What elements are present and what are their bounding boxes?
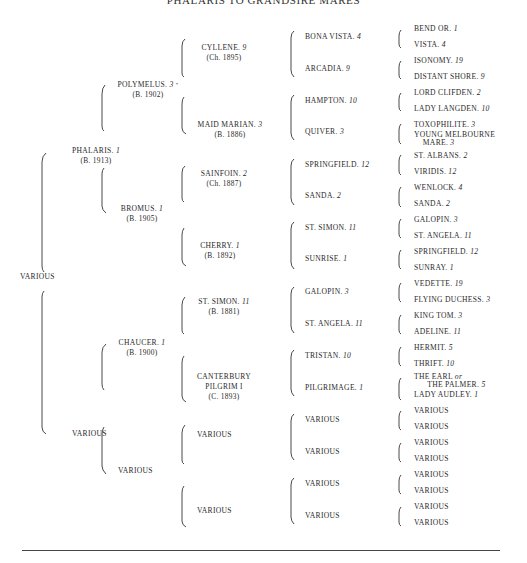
- gen5-node: TOXOPHILITE. 3: [414, 120, 475, 130]
- gen5-node: WENLOCK. 4: [414, 183, 463, 193]
- gen5-node: ST. ALBANS. 2: [414, 151, 468, 161]
- gen4-node: HAMPTON. 10: [305, 96, 357, 106]
- gen5-node: VEDETTE. 19: [414, 279, 463, 289]
- gen4-node: VARIOUS: [305, 511, 340, 521]
- gen4-node: TRISTAN. 10: [305, 351, 351, 361]
- gen5-node: BEND OR. 1: [414, 24, 458, 34]
- gen2-node: POLYMELUS. 3 " (B. 1902): [112, 80, 184, 100]
- gen5-node: VIRIDIS. 12: [414, 167, 457, 177]
- gen5-node: VARIOUS: [414, 406, 449, 416]
- gen4-node: ST. ANGELA. 11: [305, 319, 363, 329]
- gen5-node: SPRINGFIELD. 12: [414, 247, 478, 257]
- gen4-node: SUNRISE. 1: [305, 254, 347, 264]
- gen5-node: VARIOUS: [414, 486, 449, 496]
- gen5-node: SANDA. 2: [414, 199, 450, 209]
- gen5-node: ISONOMY. 19: [414, 56, 463, 66]
- gen4-node: SANDA. 2: [305, 191, 341, 201]
- gen5-node: VARIOUS: [414, 470, 449, 480]
- gen4-node: VARIOUS: [305, 479, 340, 489]
- gen3-node: SAINFOIN. 2 (Ch. 1887): [192, 169, 256, 189]
- gen5-node: FLYING DUCHESS. 3: [414, 295, 490, 305]
- gen5-node: VARIOUS: [414, 454, 449, 464]
- gen5-node: VISTA. 4: [414, 40, 446, 50]
- gen2-node: CHAUCER. 1 (B. 1900): [112, 338, 172, 358]
- gen5-node: THE EARL or THE PALMER. 5: [414, 373, 485, 389]
- gen3-node: MAID MARIAN. 3 (B. 1886): [192, 120, 268, 140]
- gen4-node: PILGRIMAGE. 1: [305, 383, 363, 393]
- gen4-node: ARCADIA. 9: [305, 64, 350, 74]
- gen5-node: VARIOUS: [414, 422, 449, 432]
- gen5-node: DISTANT SHORE. 9: [414, 72, 485, 82]
- gen5-node: LORD CLIFDEN. 2: [414, 88, 481, 98]
- gen4-node: SPRINGFIELD. 12: [305, 160, 369, 170]
- gen4-node: QUIVER. 3: [305, 127, 344, 137]
- gen4-node: VARIOUS: [305, 447, 340, 457]
- gen5-node: LADY AUDLEY. 1: [414, 390, 478, 400]
- gen3-node: CYLLENE. 9 (Ch. 1895): [192, 43, 256, 63]
- gen5-node: THRIFT. 10: [414, 359, 454, 369]
- gen5-node: VARIOUS: [414, 518, 449, 528]
- gen3-node: CHERRY. 1 (B. 1892): [192, 241, 248, 261]
- gen5-node: ADELINE. 11: [414, 327, 461, 337]
- gen4-node: ST. SIMON. 11: [305, 223, 356, 233]
- gen3-node: ST. SIMON. 11 (B. 1881): [192, 297, 256, 317]
- gen4-node: GALOPIN. 3: [305, 287, 349, 297]
- gen3-node: CANTERBURY PILGRIM I (C. 1893): [192, 372, 256, 402]
- gen3-node: VARIOUS: [197, 506, 232, 516]
- gen4-node: BONA VISTA. 4: [305, 32, 361, 42]
- gen5-node: SUNRAY. 1: [414, 263, 454, 273]
- dam-node: VARIOUS: [72, 429, 107, 439]
- gen5-node: GALOPIN. 3: [414, 215, 458, 225]
- gen2-node: BROMUS. 1 (B. 1905): [112, 204, 172, 224]
- gen5-node: YOUNG MELBOURNE MARE. 3: [414, 131, 495, 147]
- gen3-node: VARIOUS: [197, 430, 232, 440]
- bottom-rule: [22, 550, 500, 551]
- sire-node: PHALARIS. 1 (B. 1913): [66, 146, 126, 166]
- gen5-node: HERMIT. 5: [414, 343, 453, 353]
- gen5-node: KING TOM. 3: [414, 311, 462, 321]
- gen4-node: VARIOUS: [305, 415, 340, 425]
- gen2-node: VARIOUS: [118, 466, 153, 476]
- gen5-node: ST. ANGELA. 11: [414, 231, 472, 241]
- gen5-node: VARIOUS: [414, 438, 449, 448]
- gen5-node: VARIOUS: [414, 502, 449, 512]
- gen5-node: LADY LANGDEN. 10: [414, 104, 490, 114]
- root-node: VARIOUS: [20, 272, 55, 282]
